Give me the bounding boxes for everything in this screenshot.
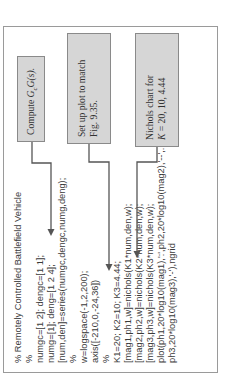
annotation-text: Compute <box>25 97 36 135</box>
annotation-compute: Compute GcG(s). <box>17 56 45 142</box>
rotated-figure: % Remotely Controlled Battlefield Vehicl… <box>3 26 218 373</box>
annotation-setup-plot: Set up plot to match Fig. 9.35. <box>67 33 111 144</box>
annotation-text: K = 20, 10, 4.44 <box>156 40 168 140</box>
arrow-setup-plot <box>89 144 109 266</box>
math-symbol: K <box>156 134 167 140</box>
annotation-text: = 20, 10, 4.44 <box>156 78 167 134</box>
arrowhead-icon <box>106 264 113 271</box>
math-symbol: G <box>25 90 36 97</box>
arrow-nichols <box>137 147 157 253</box>
arrow-compute <box>32 142 51 231</box>
math-subscript: c <box>31 87 39 90</box>
annotation-nichols: Nichols chart for K = 20, 10, 4.44 <box>135 33 179 147</box>
annotation-text: Nichols chart for <box>144 40 156 140</box>
arrowhead-icon <box>134 251 141 258</box>
annotation-text: Fig. 9.35. <box>88 40 100 137</box>
arrowhead-icon <box>48 229 55 236</box>
annotation-text: Set up plot to match <box>76 40 88 137</box>
math-symbol: G(s). <box>25 68 36 87</box>
code-frame: % Remotely Controlled Battlefield Vehicl… <box>3 26 218 373</box>
